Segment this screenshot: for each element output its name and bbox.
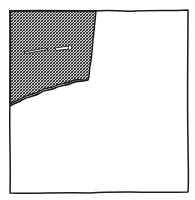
illustration-canvas (0, 0, 195, 200)
hatched-torn-region (10, 11, 96, 104)
sketch-drawing (0, 0, 195, 200)
